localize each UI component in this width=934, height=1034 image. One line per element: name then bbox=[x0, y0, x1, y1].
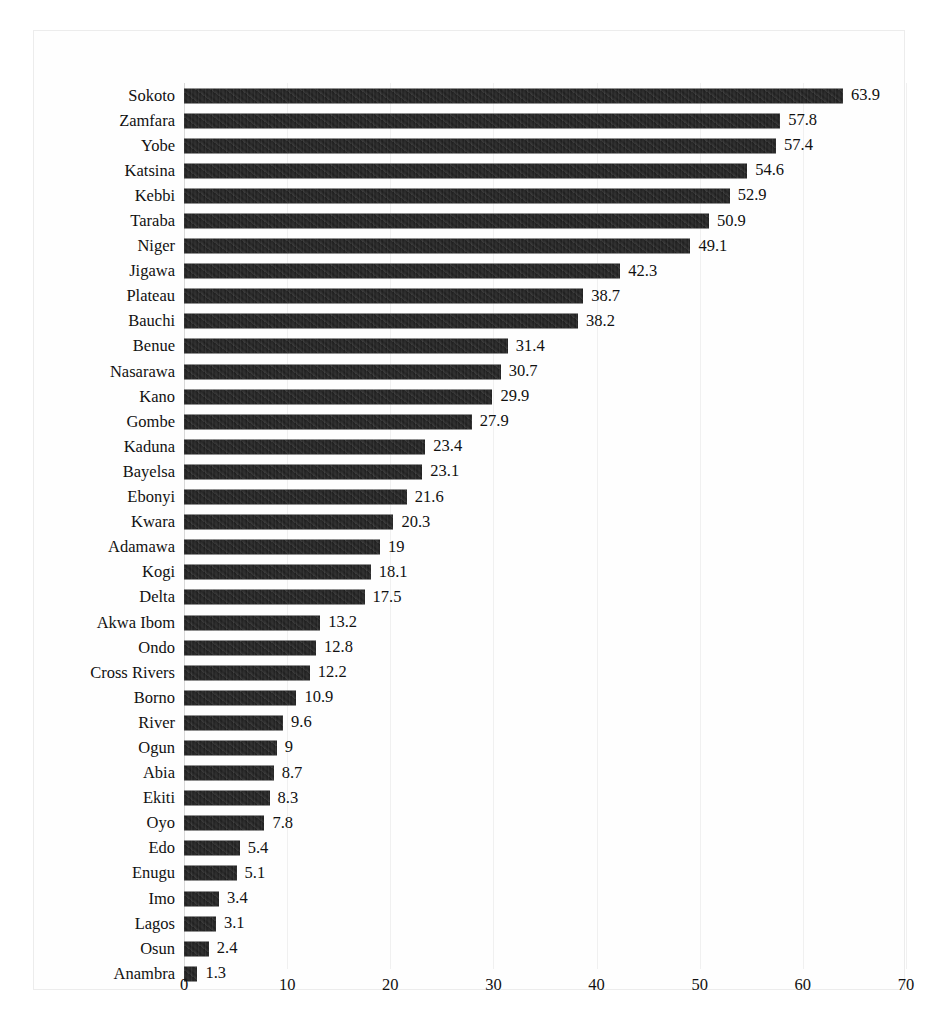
value-label: 23.4 bbox=[433, 439, 462, 456]
value-label: 42.3 bbox=[628, 263, 657, 280]
bar-row: Imo3.4 bbox=[184, 886, 906, 911]
value-label: 5.4 bbox=[248, 840, 269, 857]
value-label: 9 bbox=[285, 740, 293, 757]
x-tick-label: 40 bbox=[588, 977, 605, 994]
bar: 52.9 bbox=[184, 188, 730, 203]
category-label: Delta bbox=[139, 589, 175, 606]
category-label: Bauchi bbox=[128, 313, 175, 330]
bar: 3.4 bbox=[184, 891, 219, 906]
bar: 8.3 bbox=[184, 791, 270, 806]
category-label: Oyo bbox=[147, 815, 175, 832]
value-label: 27.9 bbox=[480, 414, 509, 431]
category-label: Ogun bbox=[138, 740, 175, 757]
bar: 54.6 bbox=[184, 163, 747, 178]
bar: 9.6 bbox=[184, 715, 283, 730]
category-label: Akwa Ibom bbox=[97, 614, 175, 631]
category-label: Adamawa bbox=[108, 539, 175, 556]
bar-row: Benue31.4 bbox=[184, 334, 906, 359]
bar: 17.5 bbox=[184, 590, 365, 605]
value-label: 10.9 bbox=[304, 690, 333, 707]
bar: 42.3 bbox=[184, 264, 620, 279]
bar-row: Zamfara57.8 bbox=[184, 108, 906, 133]
value-label: 57.4 bbox=[784, 137, 813, 154]
bar: 57.8 bbox=[184, 113, 780, 128]
category-label: Osun bbox=[140, 940, 175, 957]
value-label: 8.7 bbox=[282, 765, 303, 782]
chart-frame: Sokoto63.9Zamfara57.8Yobe57.4Katsina54.6… bbox=[33, 30, 905, 990]
plot-area: Sokoto63.9Zamfara57.8Yobe57.4Katsina54.6… bbox=[184, 83, 906, 969]
chart-page: Sokoto63.9Zamfara57.8Yobe57.4Katsina54.6… bbox=[0, 0, 934, 1034]
value-label: 30.7 bbox=[509, 363, 538, 380]
category-label: Cross Rivers bbox=[90, 664, 175, 681]
category-label: River bbox=[138, 715, 175, 732]
x-tick-label: 0 bbox=[180, 977, 188, 994]
value-label: 49.1 bbox=[698, 238, 727, 255]
bar-row: Osun2.4 bbox=[184, 936, 906, 961]
category-label: Yobe bbox=[141, 137, 175, 154]
bar: 50.9 bbox=[184, 214, 709, 229]
value-label: 38.7 bbox=[591, 288, 620, 305]
bar-row: Ebonyi21.6 bbox=[184, 485, 906, 510]
value-label: 5.1 bbox=[245, 865, 266, 882]
category-label: Gombe bbox=[126, 414, 175, 431]
category-label: Imo bbox=[148, 890, 175, 907]
category-label: Kwara bbox=[131, 514, 175, 531]
value-label: 38.2 bbox=[586, 313, 615, 330]
category-label: Ondo bbox=[138, 639, 175, 656]
value-label: 23.1 bbox=[430, 464, 459, 481]
bar-row: Edo5.4 bbox=[184, 836, 906, 861]
value-label: 12.8 bbox=[324, 639, 353, 656]
x-tick-label: 10 bbox=[279, 977, 296, 994]
bar: 2.4 bbox=[184, 941, 209, 956]
bar: 57.4 bbox=[184, 138, 776, 153]
bar: 20.3 bbox=[184, 515, 393, 530]
value-label: 7.8 bbox=[272, 815, 293, 832]
gridline bbox=[906, 83, 907, 969]
value-label: 9.6 bbox=[291, 715, 312, 732]
bar: 3.1 bbox=[184, 916, 216, 931]
bar-row: Oyo7.8 bbox=[184, 811, 906, 836]
bar: 5.4 bbox=[184, 841, 240, 856]
bar: 23.4 bbox=[184, 439, 425, 454]
bar-row: Kebbi52.9 bbox=[184, 183, 906, 208]
value-label: 20.3 bbox=[401, 514, 430, 531]
value-label: 19 bbox=[388, 539, 405, 556]
category-label: Borno bbox=[134, 690, 175, 707]
bar-row: Bauchi38.2 bbox=[184, 309, 906, 334]
category-label: Abia bbox=[143, 765, 175, 782]
category-label: Niger bbox=[137, 238, 175, 255]
bar-row: Ondo12.8 bbox=[184, 635, 906, 660]
bar-row: Abia8.7 bbox=[184, 761, 906, 786]
category-label: Taraba bbox=[130, 213, 175, 230]
value-label: 52.9 bbox=[738, 188, 767, 205]
bar: 10.9 bbox=[184, 690, 296, 705]
category-label: Kogi bbox=[142, 564, 175, 581]
bar-row: River9.6 bbox=[184, 710, 906, 735]
category-label: Anambra bbox=[114, 966, 175, 983]
bar: 30.7 bbox=[184, 364, 501, 379]
category-label: Plateau bbox=[126, 288, 175, 305]
bar: 63.9 bbox=[184, 88, 843, 103]
x-axis-tick-labels: 010203040506070 bbox=[184, 977, 906, 1003]
value-label: 2.4 bbox=[217, 940, 238, 957]
bar: 49.1 bbox=[184, 239, 690, 254]
value-label: 63.9 bbox=[851, 87, 880, 104]
bar-row: Kano29.9 bbox=[184, 384, 906, 409]
bar: 23.1 bbox=[184, 464, 422, 479]
category-label: Ekiti bbox=[143, 790, 175, 807]
bar-row: Yobe57.4 bbox=[184, 133, 906, 158]
bar-row: Sokoto63.9 bbox=[184, 83, 906, 108]
bar-row: Plateau38.7 bbox=[184, 284, 906, 309]
category-label: Kano bbox=[139, 388, 175, 405]
value-label: 21.6 bbox=[415, 489, 444, 506]
bar: 13.2 bbox=[184, 615, 320, 630]
bar: 7.8 bbox=[184, 816, 264, 831]
bar-row: Katsina54.6 bbox=[184, 158, 906, 183]
value-label: 12.2 bbox=[318, 664, 347, 681]
category-label: Bayelsa bbox=[123, 464, 175, 481]
category-label: Enugu bbox=[132, 865, 175, 882]
value-label: 8.3 bbox=[278, 790, 299, 807]
value-label: 31.4 bbox=[516, 338, 545, 355]
bar: 21.6 bbox=[184, 490, 407, 505]
bar-row: Akwa Ibom13.2 bbox=[184, 610, 906, 635]
